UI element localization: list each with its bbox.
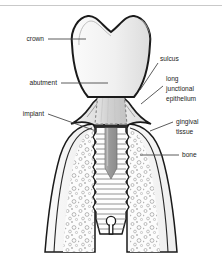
implant-structure [93,125,129,235]
label-long-junctional-epithelium-line2: junctional [165,85,194,93]
crown-body [72,16,151,97]
label-sulcus: sulcus [160,55,179,62]
label-crown: crown [26,35,44,42]
label-implant: implant [23,110,44,118]
diagram-canvas: crown abutment implant sulcus long junct… [0,0,222,260]
label-bone: bone [182,151,197,158]
crown-structure [72,16,152,97]
label-abutment: abutment [30,79,58,86]
implant-screw-channel [105,127,117,179]
label-long-junctional-epithelium-line3: epithelium [166,95,197,103]
dental-implant-diagram: crown abutment implant sulcus long junct… [0,0,222,260]
implant-platform-bar [95,125,127,128]
label-long-junctional-epithelium-line1: long [166,75,179,83]
label-gingival-tissue-line1: gingival [176,118,199,126]
leader-long-junctional-epithelium [141,86,163,104]
labels-left: crown abutment implant [23,35,57,118]
label-gingival-tissue-line2: tissue [176,128,194,135]
leader-gingival-tissue [150,122,173,131]
labels-right: sulcus long junctional epithelium gingiv… [160,55,199,158]
